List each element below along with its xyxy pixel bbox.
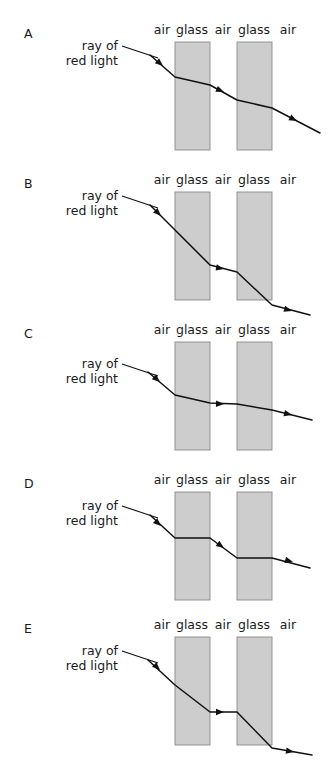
medium-label-air-2: air xyxy=(215,472,232,487)
refraction-multiple-choice-figure: Aairglassairglassairray ofred lightBairg… xyxy=(0,0,334,777)
ray-caption-line2: red light xyxy=(66,203,118,218)
medium-label-air-2: air xyxy=(215,617,232,632)
medium-label-air-0: air xyxy=(154,172,171,187)
medium-label-glass-3: glass xyxy=(238,22,270,37)
medium-label-air-4: air xyxy=(280,322,297,337)
medium-label-air-2: air xyxy=(215,172,232,187)
ray-caption-line1: ray of xyxy=(82,38,119,53)
glass-slab-1 xyxy=(175,492,210,600)
medium-label-glass-3: glass xyxy=(238,172,270,187)
ray-caption-line1: ray of xyxy=(82,188,119,203)
ray-caption-line2: red light xyxy=(66,53,118,68)
medium-label-air-4: air xyxy=(280,472,297,487)
ray-caption-line2: red light xyxy=(66,513,118,528)
panel-letter-e: E xyxy=(24,621,32,636)
medium-label-glass-1: glass xyxy=(176,172,208,187)
glass-slab-2 xyxy=(237,637,272,745)
glass-slab-2 xyxy=(237,342,272,450)
panel-letter-a: A xyxy=(24,26,33,41)
ray-caption-line1: ray of xyxy=(82,356,119,371)
ray-caption-line2: red light xyxy=(66,658,118,673)
glass-slab-1 xyxy=(175,192,210,300)
glass-slab-1 xyxy=(175,637,210,745)
panel-letter-b: B xyxy=(24,176,33,191)
medium-label-air-0: air xyxy=(154,472,171,487)
panel-letter-c: C xyxy=(24,326,33,341)
medium-label-air-4: air xyxy=(280,172,297,187)
ray-caption-line1: ray of xyxy=(82,498,119,513)
medium-label-air-2: air xyxy=(215,22,232,37)
medium-label-glass-1: glass xyxy=(176,322,208,337)
medium-label-air-0: air xyxy=(154,322,171,337)
medium-label-glass-1: glass xyxy=(176,617,208,632)
ray-caption-line1: ray of xyxy=(82,643,119,658)
medium-label-glass-3: glass xyxy=(238,617,270,632)
glass-slab-2 xyxy=(237,42,272,150)
medium-label-air-2: air xyxy=(215,322,232,337)
ray-caption-line2: red light xyxy=(66,371,118,386)
medium-label-air-4: air xyxy=(280,617,297,632)
medium-label-glass-1: glass xyxy=(176,22,208,37)
medium-label-glass-1: glass xyxy=(176,472,208,487)
glass-slab-1 xyxy=(175,42,210,150)
medium-label-air-0: air xyxy=(154,617,171,632)
medium-label-air-4: air xyxy=(280,22,297,37)
medium-label-glass-3: glass xyxy=(238,472,270,487)
glass-slab-2 xyxy=(237,492,272,600)
medium-label-air-0: air xyxy=(154,22,171,37)
medium-label-glass-3: glass xyxy=(238,322,270,337)
glass-slab-2 xyxy=(237,192,272,300)
panel-letter-d: D xyxy=(24,476,34,491)
